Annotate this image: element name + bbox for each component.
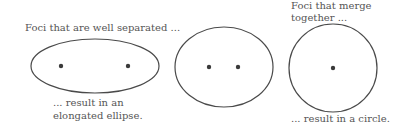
focus-dot-left bbox=[207, 65, 211, 69]
caption-bottom-circle: ... result in a circle. bbox=[291, 113, 390, 124]
panel-closer-foci bbox=[175, 27, 273, 107]
merged-focus-dot bbox=[331, 66, 335, 70]
panel-merged-foci: Foci that merge together ... ... result … bbox=[289, 0, 390, 124]
foci-diagram: Foci that are well separated ... ... res… bbox=[0, 0, 409, 126]
caption-top-well-separated: Foci that are well separated ... bbox=[25, 22, 180, 33]
caption-top-line1: Foci that merge bbox=[291, 0, 372, 11]
focus-dot-left bbox=[59, 64, 63, 68]
caption-top-line2: together ... bbox=[291, 12, 347, 23]
caption-bottom-line2: elongated ellipse. bbox=[53, 110, 143, 121]
panel-well-separated: Foci that are well separated ... ... res… bbox=[25, 22, 180, 121]
caption-bottom-line1: ... result in an bbox=[53, 97, 124, 108]
rounder-ellipse bbox=[175, 27, 273, 107]
focus-dot-right bbox=[126, 64, 130, 68]
elongated-ellipse bbox=[31, 39, 159, 93]
focus-dot-right bbox=[236, 65, 240, 69]
